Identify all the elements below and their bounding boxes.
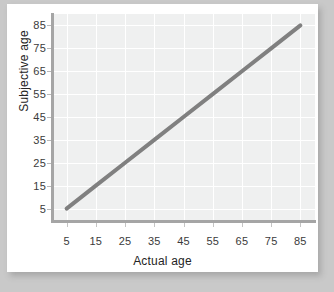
plot-area	[52, 14, 315, 220]
y-axis-title: Subjective age	[17, 1, 31, 141]
y-axis-tick-label: 15	[16, 181, 46, 192]
x-axis-tick-label: 55	[198, 236, 228, 247]
x-axis-tick-label: 85	[285, 236, 315, 247]
x-axis-tick-label: 35	[139, 236, 169, 247]
y-axis-tick	[47, 94, 51, 95]
data-series-line	[52, 14, 315, 220]
x-axis-tick	[184, 223, 185, 227]
y-axis-tick	[47, 117, 51, 118]
x-axis-tick-label: 25	[110, 236, 140, 247]
y-axis-tick	[47, 25, 51, 26]
x-axis-tick-label: 15	[81, 236, 111, 247]
y-axis-tick	[47, 71, 51, 72]
x-axis-tick-label: 45	[169, 236, 199, 247]
x-axis-title: Actual age	[7, 254, 318, 268]
x-axis-tick	[67, 223, 68, 227]
y-axis-title-container: Subjective age	[17, 1, 31, 141]
x-axis-tick	[271, 223, 272, 227]
x-axis-tick-labels: 51525354555657585	[7, 236, 318, 250]
y-axis-tick-label: 25	[16, 158, 46, 169]
x-axis-tick	[125, 223, 126, 227]
y-axis-tick	[47, 163, 51, 164]
chart-card: 51525354555657585 51525354555657585 Subj…	[7, 4, 318, 272]
y-axis-tick-label: 5	[16, 204, 46, 215]
y-axis-tick	[47, 48, 51, 49]
x-axis-tick	[300, 223, 301, 227]
y-axis-tick	[47, 186, 51, 187]
x-axis-tick-label: 75	[256, 236, 286, 247]
x-axis-tick-label: 5	[52, 236, 82, 247]
y-axis-tick	[47, 209, 51, 210]
x-axis-tick	[242, 223, 243, 227]
x-axis-tick	[96, 223, 97, 227]
x-axis-tick	[213, 223, 214, 227]
y-axis-tick	[47, 140, 51, 141]
x-axis-tick-label: 65	[227, 236, 257, 247]
x-axis-tick	[154, 223, 155, 227]
y-axis-line	[51, 13, 54, 223]
series-polyline	[67, 25, 301, 208]
figure-root: 51525354555657585 51525354555657585 Subj…	[0, 0, 334, 292]
